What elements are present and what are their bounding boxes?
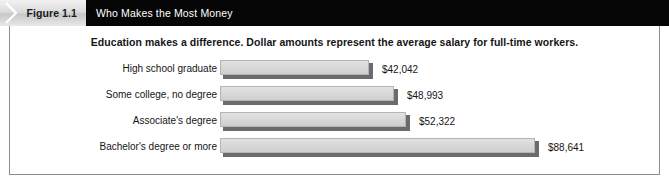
- bar-value-label: $52,322: [419, 115, 455, 128]
- bar-shadow: [406, 115, 410, 131]
- chevron-right-icon: [2, 0, 28, 26]
- figure-title-bar: Who Makes the Most Money: [86, 0, 669, 26]
- bar-value-label: $88,641: [548, 141, 584, 154]
- chart-title: Education makes a difference. Dollar amo…: [10, 36, 659, 48]
- bar-category-label: Bachelor's degree or more: [10, 140, 217, 153]
- bar-shadow: [394, 89, 398, 105]
- figure-body: Education makes a difference. Dollar amo…: [9, 26, 660, 175]
- bar-shadow: [535, 141, 539, 157]
- figure-header: Figure 1.1 Who Makes the Most Money: [0, 0, 669, 26]
- bar-shape[interactable]: [220, 60, 369, 75]
- bar-shadow: [369, 63, 373, 79]
- figure-container: Figure 1.1 Who Makes the Most Money Educ…: [0, 0, 669, 186]
- bar-shadow: [223, 127, 409, 131]
- bar-track: $52,322: [220, 112, 655, 131]
- bar-value-label: $42,042: [382, 63, 418, 76]
- bar-shape[interactable]: [220, 86, 394, 101]
- bar-category-label: Associate's degree: [10, 114, 217, 127]
- bar-shadow: [223, 153, 538, 157]
- bar-row: Some college, no degree$48,993: [10, 84, 659, 110]
- bar-chart-plot: High school graduate$42,042Some college,…: [10, 58, 659, 162]
- figure-number-tab: Figure 1.1: [0, 0, 86, 26]
- bar-row: Associate's degree$52,322: [10, 110, 659, 136]
- bar-category-label: Some college, no degree: [10, 88, 217, 101]
- bar-row: High school graduate$42,042: [10, 58, 659, 84]
- bar-category-label: High school graduate: [10, 62, 217, 75]
- bar-track: $88,641: [220, 138, 655, 157]
- bar-shadow: [223, 101, 397, 105]
- figure-title-text: Who Makes the Most Money: [96, 8, 233, 19]
- bar-track: $48,993: [220, 86, 655, 105]
- bar-shape[interactable]: [220, 138, 535, 153]
- bar-shape[interactable]: [220, 112, 406, 127]
- figure-number-label: Figure 1.1: [26, 8, 77, 19]
- bar-track: $42,042: [220, 60, 655, 79]
- bar-shadow: [223, 75, 372, 79]
- bar-row: Bachelor's degree or more$88,641: [10, 136, 659, 162]
- bar-value-label: $48,993: [407, 89, 443, 102]
